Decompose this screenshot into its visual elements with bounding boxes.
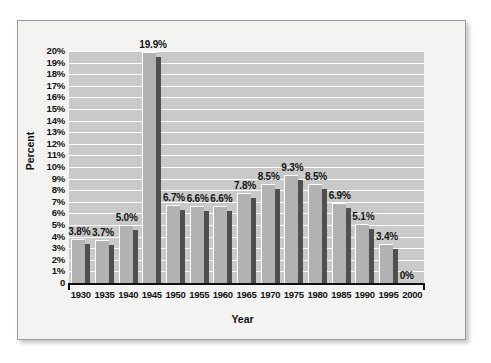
bar-value-label: 8.5% bbox=[305, 171, 327, 182]
bar-side-face bbox=[156, 57, 161, 283]
x-axis-tick-label: 1985 bbox=[331, 289, 351, 300]
bar-front-face[interactable] bbox=[308, 184, 322, 283]
bar-front-face[interactable] bbox=[261, 184, 275, 283]
bar-front-face[interactable] bbox=[379, 244, 393, 283]
bar-group[interactable] bbox=[119, 51, 138, 283]
y-axis-tick-label: 14% bbox=[47, 115, 65, 126]
bar-side-face bbox=[393, 249, 398, 283]
y-axis-tick-label: 20% bbox=[47, 45, 65, 56]
x-axis-line bbox=[68, 283, 425, 285]
bar-side-face bbox=[109, 245, 114, 283]
bar-group[interactable] bbox=[190, 51, 209, 283]
chart-area: Percent 20%19%18%17%16%15%14%13%12%11%10… bbox=[18, 21, 467, 341]
bar-front-face[interactable] bbox=[95, 240, 109, 283]
bar-front-face[interactable] bbox=[142, 52, 156, 283]
bar-front-face[interactable] bbox=[237, 193, 251, 283]
bar-side-face bbox=[322, 189, 327, 283]
figure-root: Percent 20%19%18%17%16%15%14%13%12%11%10… bbox=[0, 0, 491, 363]
bar-front-face[interactable] bbox=[71, 239, 85, 283]
x-axis-tick-label: 1930 bbox=[71, 289, 91, 300]
y-axis-tick-label: 15% bbox=[47, 103, 65, 114]
x-axis-tick-label: 2000 bbox=[402, 289, 422, 300]
y-axis-tick-labels: 20%19%18%17%16%15%14%13%12%11%10%9%8%7%6… bbox=[26, 51, 65, 283]
bar-group[interactable] bbox=[95, 51, 114, 283]
bar-side-face bbox=[298, 180, 303, 283]
y-axis-tick-label: 3% bbox=[52, 242, 65, 253]
bar-side-face bbox=[369, 229, 374, 283]
bar-group[interactable] bbox=[166, 51, 185, 283]
bar-front-face[interactable] bbox=[332, 203, 346, 283]
bar-side-face bbox=[251, 198, 256, 283]
y-axis-tick-label: 6% bbox=[52, 207, 65, 218]
bar-group[interactable] bbox=[308, 51, 327, 283]
bar-front-face[interactable] bbox=[284, 175, 298, 283]
bar-side-face bbox=[204, 211, 209, 283]
x-axis-tick-label: 1965 bbox=[237, 289, 257, 300]
x-axis-tick-label: 1970 bbox=[260, 289, 280, 300]
bar-value-label: 6.9% bbox=[329, 190, 351, 201]
bar-value-label: 6.6% bbox=[187, 193, 209, 204]
bar-value-label: 3.8% bbox=[68, 226, 90, 237]
y-axis-tick-label: 16% bbox=[47, 91, 65, 102]
x-axis-tick-label: 1975 bbox=[284, 289, 304, 300]
bar-front-face[interactable] bbox=[119, 225, 133, 283]
x-axis-tick-label: 1940 bbox=[118, 289, 138, 300]
bar-value-label: 3.7% bbox=[92, 227, 114, 238]
y-axis-tick-label: 10% bbox=[47, 161, 65, 172]
bar-value-label: 7.8% bbox=[234, 180, 256, 191]
y-axis-tick-label: 19% bbox=[47, 57, 65, 68]
y-axis-tick-label: 12% bbox=[47, 138, 65, 149]
bar-front-face[interactable] bbox=[190, 206, 204, 283]
chart-panel: Percent 20%19%18%17%16%15%14%13%12%11%10… bbox=[17, 20, 466, 340]
y-axis-tick-label: 13% bbox=[47, 126, 65, 137]
x-axis-tick-label: 1980 bbox=[308, 289, 328, 300]
bar-side-face bbox=[275, 189, 280, 283]
bar-group[interactable] bbox=[355, 51, 374, 283]
y-axis-tick-label: 8% bbox=[52, 184, 65, 195]
bar-side-face bbox=[85, 244, 90, 283]
x-axis-tick-label: 1950 bbox=[166, 289, 186, 300]
bar-group[interactable] bbox=[379, 51, 398, 283]
y-axis-tick-label: 2% bbox=[52, 254, 65, 265]
y-axis-tick-label: 5% bbox=[52, 219, 65, 230]
x-axis-tick-label: 1990 bbox=[355, 289, 375, 300]
bar-front-face[interactable] bbox=[166, 205, 180, 283]
bar-value-label: 6.7% bbox=[163, 192, 185, 203]
x-axis-tick-label: 1960 bbox=[213, 289, 233, 300]
bar-series: 3.8%3.7%5.0%19.9%6.7%6.6%6.6%7.8%8.5%9.3… bbox=[69, 51, 424, 283]
bar-value-label: 5.1% bbox=[352, 211, 374, 222]
bar-value-label: 9.3% bbox=[281, 162, 303, 173]
y-axis-tick-label: 17% bbox=[47, 80, 65, 91]
bar-group[interactable] bbox=[332, 51, 351, 283]
bar-value-label: 6.6% bbox=[210, 193, 232, 204]
y-axis-tick-label: 1% bbox=[52, 265, 65, 276]
bar-value-label: 5.0% bbox=[116, 212, 138, 223]
bar-value-label: 8.5% bbox=[258, 171, 280, 182]
x-axis-tick-label: 1995 bbox=[379, 289, 399, 300]
bar-group[interactable] bbox=[213, 51, 232, 283]
bar-value-label: 19.9% bbox=[139, 39, 166, 50]
bar-value-label: 3.4% bbox=[376, 231, 398, 242]
y-axis-tick-label: 7% bbox=[52, 196, 65, 207]
x-axis-tick-label: 1945 bbox=[142, 289, 162, 300]
bar-front-face[interactable] bbox=[213, 206, 227, 283]
x-axis-tick-label: 1935 bbox=[95, 289, 115, 300]
bar-side-face bbox=[227, 211, 232, 283]
bar-group[interactable] bbox=[142, 51, 161, 283]
bar-group[interactable] bbox=[403, 51, 422, 283]
x-axis-title: Year bbox=[18, 313, 467, 325]
bar-side-face bbox=[180, 210, 185, 283]
plot-area: 3.8%3.7%5.0%19.9%6.7%6.6%6.6%7.8%8.5%9.3… bbox=[69, 51, 424, 283]
y-axis-tick-label: 9% bbox=[52, 173, 65, 184]
x-axis-tick-label: 1955 bbox=[189, 289, 209, 300]
bar-group[interactable] bbox=[237, 51, 256, 283]
x-axis-tick-labels: 1930193519401945195019551960196519701975… bbox=[69, 289, 424, 305]
y-axis-tick-label: 4% bbox=[52, 231, 65, 242]
y-axis-tick-label: 0 bbox=[60, 277, 65, 288]
bar-side-face bbox=[346, 208, 351, 283]
bar-front-face[interactable] bbox=[355, 224, 369, 283]
y-axis-tick-label: 18% bbox=[47, 68, 65, 79]
bar-group[interactable] bbox=[261, 51, 280, 283]
bar-value-label: 0% bbox=[400, 270, 414, 281]
bar-group[interactable] bbox=[71, 51, 90, 283]
